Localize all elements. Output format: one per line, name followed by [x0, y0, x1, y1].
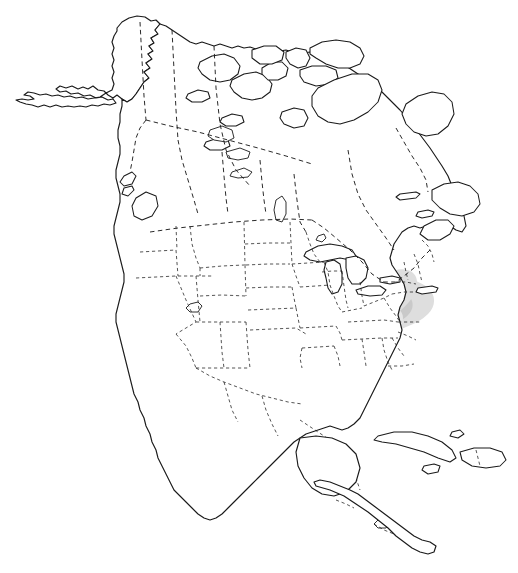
north-america-map	[0, 0, 518, 573]
lake-ontario	[380, 276, 400, 284]
lake-huron	[346, 256, 368, 284]
island-jamaica	[422, 464, 440, 474]
border-ga-fl	[388, 364, 414, 366]
island-bahamas	[450, 430, 464, 438]
coastline-central-america	[314, 480, 436, 554]
southern-coast-group	[296, 436, 436, 554]
island-cuba	[374, 432, 456, 462]
island-melville	[252, 46, 284, 64]
coastline-group	[16, 16, 506, 520]
island-hispaniola	[460, 448, 506, 468]
lake-winnipeg	[274, 196, 286, 222]
distribution-map-figure	[0, 0, 518, 573]
border-maine	[422, 240, 434, 262]
